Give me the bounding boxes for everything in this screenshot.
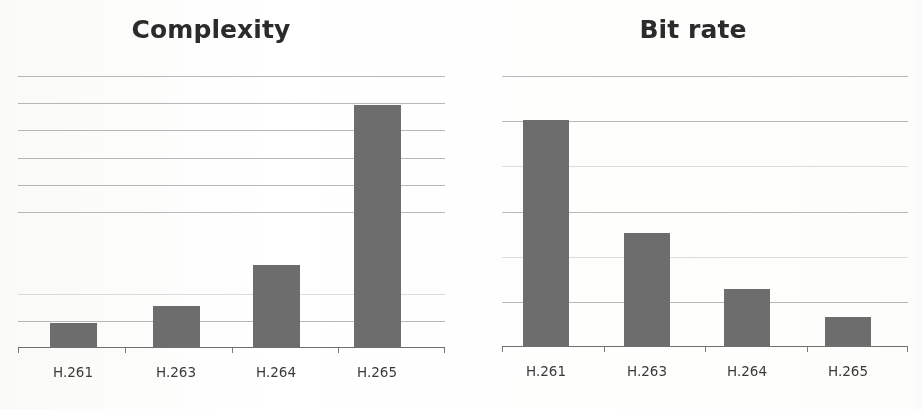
x-axis-label: H.264 <box>256 364 296 380</box>
x-axis-tick <box>125 348 126 353</box>
plot-area-bitrate: H.261H.263H.264H.265 <box>502 76 908 347</box>
chart-panel-complexity: Complexity H.261H.263H.264H.265 <box>0 0 458 409</box>
x-axis-tick <box>502 347 503 352</box>
chart-title-complexity: Complexity <box>0 14 440 46</box>
bar-series-bitrate <box>502 76 908 347</box>
chart-title-bitrate: Bit rate <box>464 14 922 46</box>
chart-panel-bitrate: Bit rate H.261H.263H.264H.265 <box>458 0 916 409</box>
x-axis-tick <box>18 348 19 353</box>
x-axis-tick <box>807 347 808 352</box>
bar-H.264 <box>724 289 770 346</box>
plot-area-complexity: H.261H.263H.264H.265 <box>18 76 445 348</box>
x-axis-label: H.265 <box>828 363 868 379</box>
x-axis-label: H.263 <box>156 364 196 380</box>
bar-H.264 <box>253 265 300 347</box>
x-axis-tick <box>232 348 233 353</box>
x-axis-label: H.264 <box>727 363 767 379</box>
x-axis-tick <box>604 347 605 352</box>
x-axis-tick <box>705 347 706 352</box>
bar-H.265 <box>354 105 401 347</box>
x-axis-label: H.261 <box>53 364 93 380</box>
x-axis-label: H.265 <box>357 364 397 380</box>
bar-H.263 <box>624 233 670 346</box>
x-axis-labels-bitrate: H.261H.263H.264H.265 <box>502 347 908 387</box>
bar-H.263 <box>153 306 200 347</box>
bar-H.265 <box>825 317 871 346</box>
bar-series-complexity <box>18 76 445 348</box>
x-axis-label: H.263 <box>627 363 667 379</box>
x-axis-tick <box>338 348 339 353</box>
x-axis-labels-complexity: H.261H.263H.264H.265 <box>18 348 445 388</box>
bar-H.261 <box>523 120 569 346</box>
bar-H.261 <box>50 323 97 347</box>
x-axis-tick <box>444 348 445 353</box>
x-axis-label: H.261 <box>526 363 566 379</box>
x-axis-tick <box>907 347 908 352</box>
